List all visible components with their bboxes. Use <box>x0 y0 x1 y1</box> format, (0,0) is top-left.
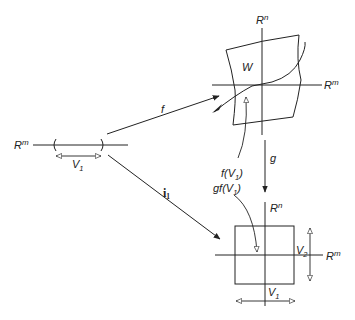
top-chart-group: Rn Rm W <box>212 13 339 135</box>
bottom-chart-group: Rn Rm V2 V1 <box>215 201 341 306</box>
source-axis-label: Rm <box>14 138 29 151</box>
f-of-v1-annotation: f(V1) <box>221 97 246 182</box>
interval-v1-label: V1 <box>72 158 84 173</box>
f-of-v1-pointer <box>238 97 246 158</box>
f-of-v1-label: f(V1) <box>221 167 243 182</box>
map-f-label: f <box>161 103 165 115</box>
bottom-horizontal-axis-label: Rm <box>326 249 341 262</box>
bottom-vertical-axis-label: Rn <box>270 201 283 214</box>
map-i1-group: i1 <box>108 155 220 239</box>
map-i1-label: i1 <box>163 186 170 201</box>
top-vertical-axis-label: Rn <box>256 13 269 26</box>
gf-of-v1-pointer <box>234 195 257 252</box>
region-w-label: W <box>242 61 254 73</box>
top-horizontal-axis-label: Rm <box>324 78 339 91</box>
diagram-canvas: Rm V1 f i1 Rn Rm W f(V1) g gf(V1) <box>0 0 355 320</box>
region-w-outline <box>226 35 301 125</box>
v2-label: V2 <box>296 244 308 259</box>
source-line-group: Rm V1 <box>14 138 128 173</box>
map-g-label: g <box>270 152 277 164</box>
image-curve-f <box>214 42 305 112</box>
map-f-group: f <box>107 96 219 134</box>
gf-of-v1-label: gf(V1) <box>213 182 241 197</box>
curve-start-arrowhead <box>212 104 222 113</box>
map-g-group: g <box>265 140 277 192</box>
v1-label-bottom: V1 <box>268 286 280 301</box>
map-f-arrow <box>107 96 219 134</box>
